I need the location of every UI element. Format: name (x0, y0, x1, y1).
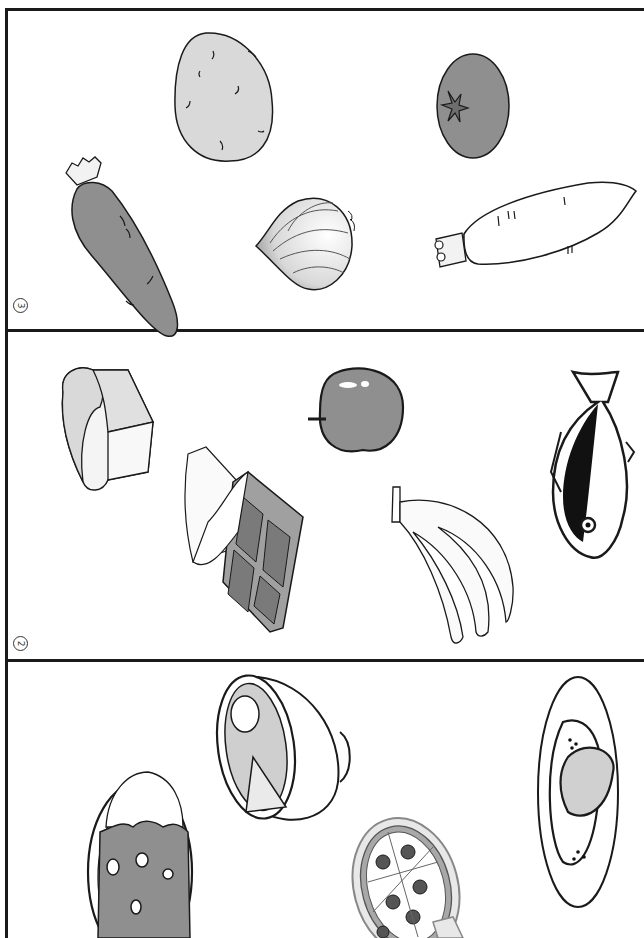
panel-number-3: 3 (13, 298, 28, 313)
curry-plate-illustration (88, 772, 192, 938)
ramen-bowl-illustration (208, 670, 349, 823)
tomato-illustration (437, 54, 509, 158)
pizza-illustration (338, 806, 475, 938)
chocolate-illustration (185, 447, 303, 632)
fish-illustration (551, 372, 634, 558)
bread-illustration (62, 368, 153, 490)
banana-illustration (392, 487, 513, 643)
panel-foods: 2 (8, 332, 644, 659)
panel-dishes (8, 662, 644, 938)
carrot-illustration (66, 157, 177, 336)
panel-vegetables: 3 (8, 11, 644, 329)
omurice-plate-illustration (538, 677, 618, 907)
onion-illustration (256, 198, 355, 289)
daikon-illustration (435, 182, 636, 267)
apple-illustration (308, 368, 403, 451)
potato-illustration (175, 33, 273, 161)
panel-number-2: 2 (13, 636, 28, 651)
